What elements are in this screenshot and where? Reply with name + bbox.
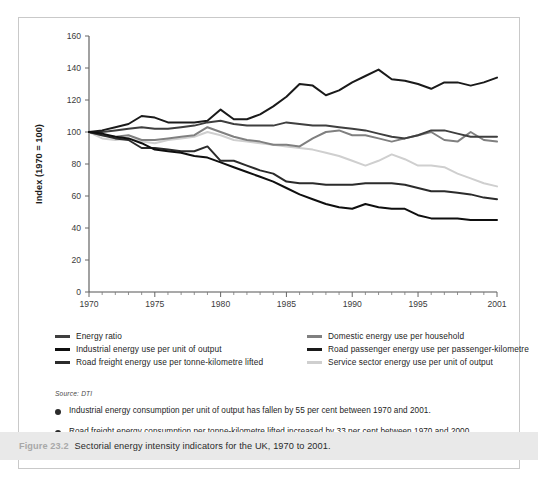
legend-item[interactable]: Road passenger energy use per passenger-… — [307, 344, 511, 354]
x-tick-label: 1985 — [277, 299, 296, 309]
caption-inner: Figure 23.2 Sectorial energy intensity i… — [0, 441, 331, 451]
legend-item[interactable]: Road freight energy use per tonne-kilome… — [55, 357, 307, 367]
legend-swatch-icon — [307, 361, 322, 364]
x-tick-label: 2001 — [487, 299, 506, 309]
legend-swatch-icon — [55, 335, 70, 338]
figure-number: Figure 23.2 — [19, 441, 69, 451]
x-tick-label: 1990 — [343, 299, 362, 309]
figure-border-box: 020406080100120140160 197019751980198519… — [18, 17, 520, 469]
caption-text: Sectorial energy intensity indicators fo… — [75, 441, 331, 451]
y-tick-label: 100 — [67, 127, 82, 137]
y-tick-labels: 020406080100120140160 — [67, 31, 82, 297]
legend-label: Road freight energy use per tonne-kilome… — [76, 357, 263, 367]
line-chart-svg: 020406080100120140160 197019751980198519… — [27, 24, 513, 320]
y-tick-label: 140 — [67, 63, 82, 73]
y-tick-label: 80 — [71, 159, 81, 169]
x-tick-label: 1970 — [79, 299, 98, 309]
series-lines-group — [89, 70, 497, 220]
list-item: Industrial energy consumption per unit o… — [55, 406, 507, 416]
source-note: Source: DTI — [55, 390, 92, 397]
legend-swatch-icon — [307, 348, 322, 351]
x-tick-group — [89, 292, 497, 297]
x-tick-label: 1980 — [211, 299, 230, 309]
x-tick-label: 1975 — [145, 299, 164, 309]
figure-caption-bar: Figure 23.2 Sectorial energy intensity i… — [0, 432, 538, 460]
legend-label: Service sector energy use per unit of ou… — [328, 357, 493, 367]
legend-item[interactable]: Service sector energy use per unit of ou… — [307, 357, 511, 367]
figure-root: 020406080100120140160 197019751980198519… — [0, 0, 538, 486]
y-tick-label: 60 — [71, 191, 81, 201]
bullet-dot-icon — [55, 409, 61, 415]
legend-item[interactable]: Domestic energy use per household — [307, 331, 511, 341]
legend-item[interactable]: Industrial energy use per unit of output — [55, 344, 307, 354]
legend-label: Domestic energy use per household — [328, 331, 464, 341]
legend-label: Industrial energy use per unit of output — [76, 344, 222, 354]
legend-label: Energy ratio — [76, 331, 122, 341]
bullet-text: Industrial energy consumption per unit o… — [69, 406, 431, 416]
legend-label: Road passenger energy use per passenger-… — [328, 344, 529, 354]
y-tick-label: 20 — [71, 255, 81, 265]
y-tick-label: 120 — [67, 95, 82, 105]
y-axis-title: Index (1970 = 100) — [34, 124, 44, 204]
y-tick-label: 0 — [76, 287, 81, 297]
legend-grid: Energy ratioDomestic energy use per hous… — [55, 331, 511, 367]
x-tick-label: 1995 — [408, 299, 427, 309]
chart-legend: Energy ratioDomestic energy use per hous… — [55, 331, 511, 367]
y-tick-label: 40 — [71, 223, 81, 233]
y-tick-label: 160 — [67, 31, 82, 41]
legend-swatch-icon — [55, 361, 70, 364]
x-tick-labels: 1970197519801985199019952001 — [79, 299, 506, 309]
legend-swatch-icon — [55, 348, 70, 351]
chart-plot-area: 020406080100120140160 197019751980198519… — [27, 24, 513, 320]
legend-item[interactable]: Energy ratio — [55, 331, 307, 341]
y-tick-group — [85, 36, 89, 292]
legend-swatch-icon — [307, 335, 322, 338]
